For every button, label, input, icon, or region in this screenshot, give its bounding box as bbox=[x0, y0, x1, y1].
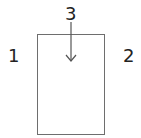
down-arrow-icon bbox=[0, 0, 141, 138]
